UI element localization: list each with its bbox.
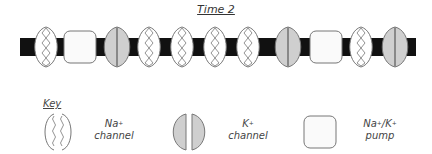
key-label-pump: Na+/K+ pump: [350, 118, 410, 142]
key-label-na-channel: Na+ channel: [84, 118, 144, 142]
key-na-channel-icon: [45, 114, 71, 150]
na-channel-icon: [138, 27, 161, 67]
na-channel-icon: [204, 27, 227, 67]
key-title: Key: [43, 98, 61, 109]
k-channel-icon: [275, 27, 301, 67]
pump-icon: [64, 31, 96, 63]
na-channel-icon: [237, 27, 260, 67]
k-channel-icon: [104, 27, 130, 67]
na-channel-icon: [171, 27, 194, 67]
key-label-k-channel: K+ channel: [218, 118, 278, 142]
pump-icon: [310, 31, 342, 63]
key-k-channel-icon: [173, 114, 205, 150]
key-pump-icon: [304, 116, 336, 148]
na-channel-icon: [350, 27, 373, 67]
na-channel-icon: [35, 27, 58, 67]
k-channel-icon: [382, 27, 408, 67]
